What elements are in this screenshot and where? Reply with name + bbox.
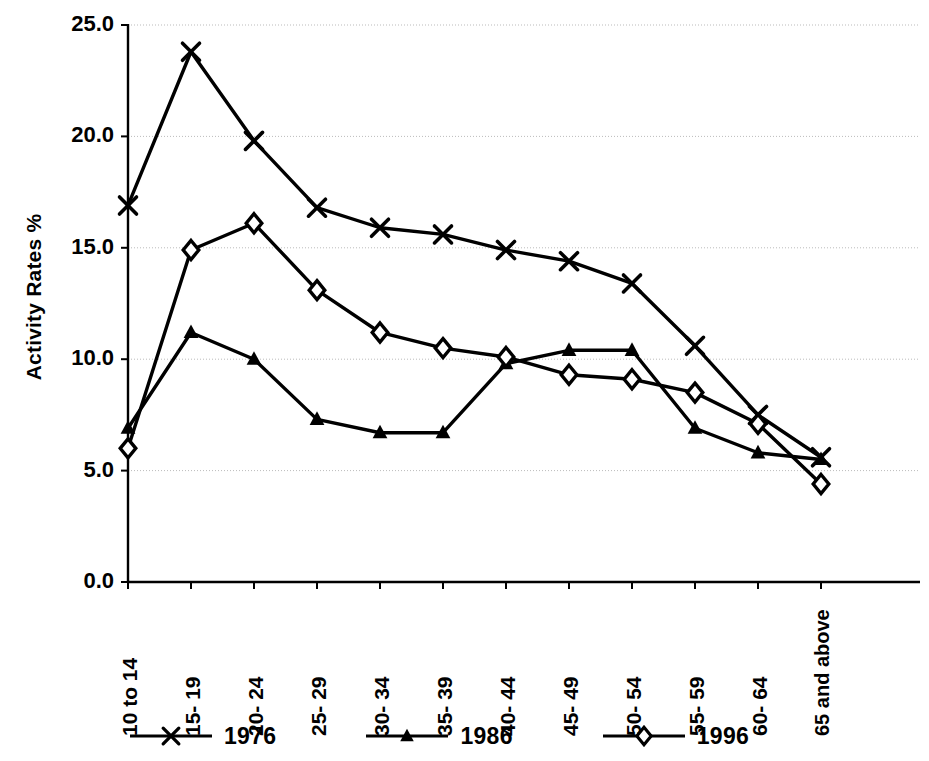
x-axis-tick-label: 55- 59 <box>685 586 709 736</box>
x-axis-tick-label: 45- 49 <box>559 586 583 736</box>
legend-item-1986[interactable]: 1986 <box>364 723 512 750</box>
series-line <box>128 223 821 484</box>
y-axis-tick-label: 20.0 <box>42 124 114 146</box>
data-point <box>120 439 136 458</box>
legend-label: 1996 <box>697 723 749 750</box>
x-axis-tick-label: 50- 54 <box>622 586 646 736</box>
data-point <box>372 323 388 342</box>
data-point <box>561 365 577 384</box>
data-point <box>184 324 199 338</box>
x-axis-tick-labels: 10 to 1415- 1920- 2425- 2930- 3435- 3940… <box>128 586 920 716</box>
activity-rates-line-chart: Activity Rates % 0.05.010.015.020.025.0 … <box>0 0 929 761</box>
chart-legend: 197619861996 <box>128 716 828 756</box>
data-point <box>183 241 199 260</box>
data-point <box>183 43 200 60</box>
data-point <box>624 275 641 292</box>
x-axis-tick-label: 60- 64 <box>748 586 772 736</box>
series-1986 <box>121 324 829 465</box>
y-axis-tick-label: 10.0 <box>42 347 114 369</box>
x-axis-tick-label: 35- 39 <box>433 586 457 736</box>
y-axis-tick-label: 15.0 <box>42 236 114 258</box>
y-axis-tick-label: 5.0 <box>42 459 114 481</box>
legend-item-1976[interactable]: 1976 <box>128 723 276 750</box>
data-point <box>687 383 703 402</box>
data-point <box>309 199 326 216</box>
data-point <box>435 339 451 358</box>
data-point <box>687 337 704 354</box>
y-axis-tick-labels: 0.05.010.015.020.025.0 <box>42 0 114 761</box>
data-point <box>624 370 640 389</box>
x-axis-tick-label: 65 and above <box>811 586 834 736</box>
x-axis-tick-label: 20- 24 <box>244 586 268 736</box>
series-1976 <box>120 43 830 465</box>
x-axis-tick-label: 30- 34 <box>370 586 394 736</box>
legend-marker-x-cross-icon <box>128 725 214 747</box>
legend-label: 1986 <box>460 723 512 750</box>
series-1996 <box>120 214 829 494</box>
x-axis-tick-label: 15- 19 <box>181 586 205 736</box>
y-axis-tick-label: 0.0 <box>42 570 114 592</box>
data-point <box>246 132 263 149</box>
y-axis-tick-label: 25.0 <box>42 13 114 35</box>
x-axis-tick-label: 25- 29 <box>307 586 331 736</box>
legend-marker-triangle-icon <box>364 725 450 747</box>
legend-item-1996[interactable]: 1996 <box>601 723 749 750</box>
chart-canvas <box>128 25 920 582</box>
x-axis-tick-label: 40- 44 <box>496 586 520 736</box>
legend-marker-diamond-icon <box>601 725 687 747</box>
legend-label: 1976 <box>224 723 276 750</box>
x-axis-tick-label: 10 to 14 <box>118 586 142 736</box>
plot-area <box>128 25 920 582</box>
